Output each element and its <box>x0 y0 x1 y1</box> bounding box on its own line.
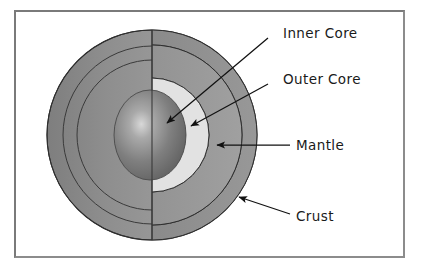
layer-inner-core <box>114 90 186 180</box>
label-mantle: Mantle <box>296 139 344 153</box>
label-inner-core: Inner Core <box>283 27 358 41</box>
label-outer-core: Outer Core <box>283 73 361 87</box>
label-crust: Crust <box>296 210 334 224</box>
leader-line-crust <box>239 197 290 214</box>
earth-cutaway-illustration <box>0 0 421 270</box>
diagram-canvas: Inner Core Outer Core Mantle Crust <box>0 0 421 270</box>
